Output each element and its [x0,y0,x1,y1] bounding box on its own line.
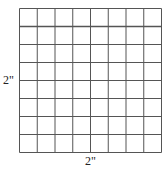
side-length-label: 2" [3,74,14,86]
grid-lines [20,9,162,153]
bottom-length-label: 2" [85,155,96,167]
grid-diagram [0,0,164,170]
